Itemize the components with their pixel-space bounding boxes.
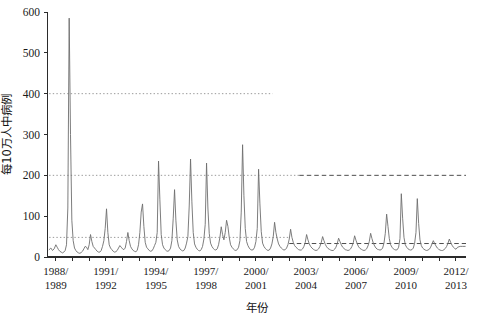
x-tick-label: 1989: [45, 279, 68, 291]
x-tick-label: 1994/: [143, 265, 169, 277]
x-tick-label: 1998: [195, 279, 218, 291]
x-axis-title: 年份: [246, 301, 269, 315]
x-tick-label: 2012/: [443, 265, 469, 277]
y-axis-ticks: 0100200300400500600: [23, 6, 48, 263]
y-tick-label: 100: [23, 210, 41, 222]
y-axis-title: 每10万人中病例: [0, 94, 14, 175]
x-tick-label: 2000/: [243, 265, 269, 277]
x-tick-label: 2007: [345, 279, 368, 291]
x-tick-label: 2010: [395, 279, 418, 291]
y-tick-label: 0: [34, 251, 40, 263]
x-axis-ticks: 1988/19891991/19921994/19951997/19982000…: [43, 257, 469, 291]
x-tick-label: 1992: [95, 279, 117, 291]
chart-container: 0100200300400500600 1988/19891991/199219…: [0, 0, 477, 319]
data-series-layer: [49, 18, 465, 253]
series-path: [49, 18, 465, 253]
x-tick-label: 2013: [445, 279, 468, 291]
x-tick-label: 2003/: [293, 265, 319, 277]
y-tick-label: 500: [23, 47, 41, 59]
y-tick-label: 400: [23, 88, 41, 100]
incidence-line-chart: 0100200300400500600 1988/19891991/199219…: [0, 0, 477, 319]
y-tick-label: 200: [23, 169, 41, 181]
x-tick-label: 1995: [145, 279, 168, 291]
y-tick-label: 300: [23, 129, 41, 141]
x-tick-label: 2006/: [343, 265, 369, 277]
x-tick-label: 1991/: [93, 265, 119, 277]
x-tick-label: 2004: [295, 279, 318, 291]
x-tick-label: 2001: [245, 279, 267, 291]
x-tick-label: 1997/: [193, 265, 219, 277]
x-tick-label: 1988/: [43, 265, 69, 277]
x-tick-label: 2009/: [393, 265, 419, 277]
y-tick-label: 600: [23, 6, 41, 18]
